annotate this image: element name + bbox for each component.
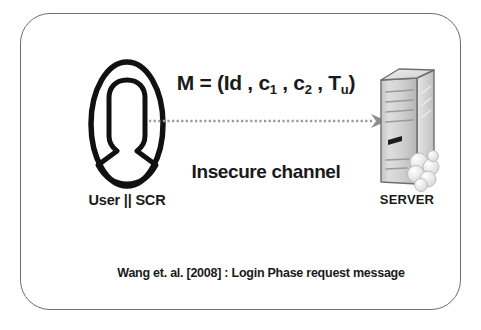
user-label: User || SCR — [79, 192, 175, 208]
dotted-right-arrow-icon — [149, 110, 389, 132]
formula-sep-1: , — [242, 71, 259, 94]
message-formula: M = (Id , c1 , c2 , Tu) — [171, 72, 361, 93]
formula-sep-3: , — [312, 71, 329, 94]
diagram-caption: Wang et. al. [2008] : Login Phase reques… — [61, 266, 461, 280]
formula-term-id: Id — [224, 71, 242, 94]
formula-suffix: ) — [348, 71, 355, 94]
server-tower-icon — [371, 64, 443, 192]
server-label: SERVER — [357, 192, 457, 207]
server-actor: SERVER — [357, 58, 457, 228]
formula-sep-2: , — [277, 71, 294, 94]
diagram-frame: User || SCR M = (Id , c1 , c2 , Tu) Inse… — [20, 13, 461, 310]
user-actor: User || SCR — [79, 58, 175, 228]
formula-term-c2-sub: 2 — [305, 82, 312, 97]
formula-term-c2: c — [293, 71, 304, 94]
formula-prefix: M = ( — [177, 71, 224, 94]
formula-term-c1-sub: 1 — [270, 82, 277, 97]
channel-label: Insecure channel — [161, 161, 371, 183]
formula-term-tu: T — [328, 71, 341, 94]
formula-term-tu-sub: u — [341, 82, 349, 97]
formula-term-c1: c — [258, 71, 269, 94]
